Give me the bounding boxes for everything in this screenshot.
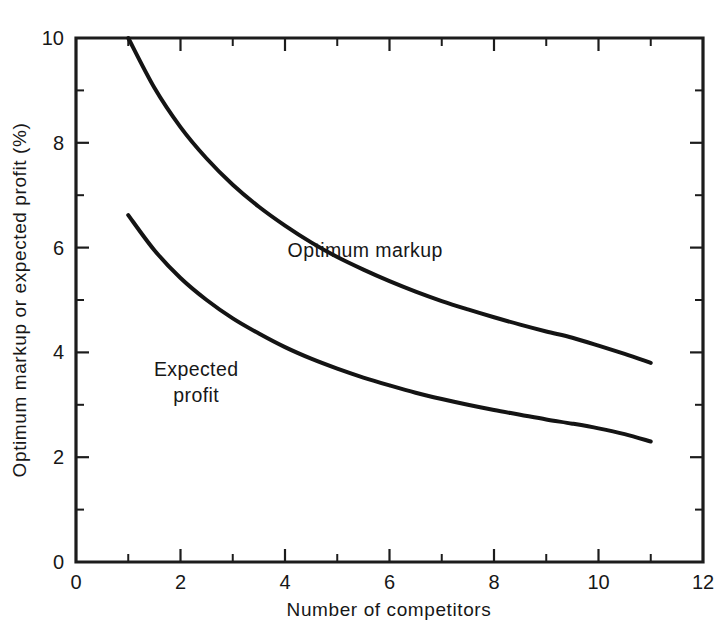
x-tick-label: 4 xyxy=(279,571,290,593)
series-label-expected-profit-line1: Expected xyxy=(154,358,239,380)
x-axis-title: Number of competitors xyxy=(287,599,492,620)
chart-figure: 024681012 0246810 Number of competitors … xyxy=(0,0,727,636)
x-tick-label: 8 xyxy=(488,571,499,593)
series-label-expected-profit-line2: profit xyxy=(173,384,219,406)
x-tick-label: 10 xyxy=(587,571,609,593)
y-tick-label: 6 xyxy=(53,237,64,259)
line-chart: 024681012 0246810 Number of competitors … xyxy=(0,0,727,636)
series-label-optimum-markup: Optimum markup xyxy=(288,239,443,261)
x-tick-label: 12 xyxy=(692,571,714,593)
y-tick-label: 4 xyxy=(53,341,64,363)
x-tick-label: 0 xyxy=(70,571,81,593)
y-tick-label: 0 xyxy=(53,551,64,573)
x-tick-label: 2 xyxy=(175,571,186,593)
y-tick-label: 8 xyxy=(53,132,64,154)
y-axis-title: Optimum markup or expected profit (%) xyxy=(9,123,30,478)
x-tick-label: 6 xyxy=(384,571,395,593)
y-tick-label: 10 xyxy=(42,27,64,49)
chart-background xyxy=(0,0,727,636)
y-tick-label: 2 xyxy=(53,446,64,468)
